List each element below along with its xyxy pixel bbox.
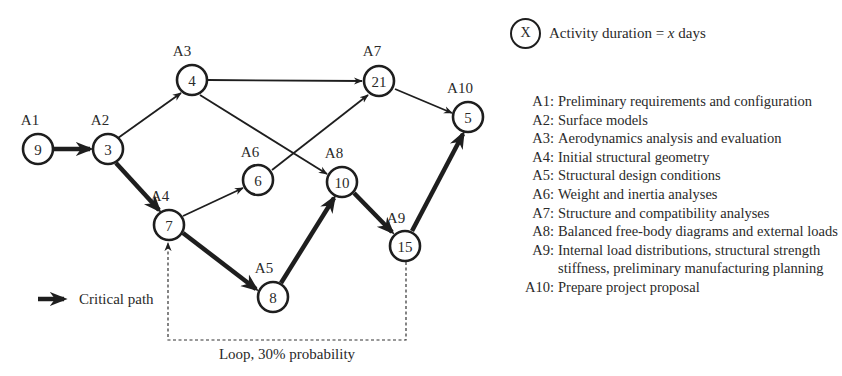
- activity-code: A6:: [510, 185, 558, 204]
- node-a5: A5 8: [255, 260, 288, 312]
- node-a2: A2 3: [91, 112, 123, 164]
- svg-text:15: 15: [398, 239, 413, 255]
- edge-a7-a10: [395, 89, 452, 113]
- svg-text:10: 10: [335, 175, 350, 191]
- node-a3: A3 4: [173, 43, 207, 95]
- activity-network-diagram: Loop, 30% probability A1 9 A2 3 A3 4 A4 …: [0, 0, 500, 376]
- activity-code: A5:: [510, 166, 558, 185]
- duration-key-text: Activity duration = x days: [549, 25, 706, 42]
- activity-code: A3:: [510, 129, 558, 148]
- activity-item: A10:Prepare project proposal: [510, 278, 840, 297]
- node-a8: A8 10: [325, 145, 357, 197]
- activity-description: Preliminary requirements and configurati…: [558, 92, 812, 111]
- duration-key-suffix: days: [675, 25, 706, 41]
- activity-item: A5:Structural design conditions: [510, 166, 840, 185]
- svg-text:8: 8: [269, 290, 277, 306]
- svg-text:5: 5: [464, 110, 472, 126]
- svg-text:A10: A10: [447, 80, 473, 96]
- activity-item: A3:Aerodynamics analysis and evaluation: [510, 129, 840, 148]
- svg-text:A2: A2: [91, 112, 109, 128]
- svg-text:6: 6: [254, 173, 262, 189]
- edge-a3-a7: [208, 80, 362, 81]
- svg-text:A4: A4: [151, 188, 170, 204]
- edge-a3-a8: [200, 95, 327, 174]
- edge-a6-a7: [272, 95, 368, 170]
- activity-list: A1:Preliminary requirements and configur…: [510, 92, 840, 297]
- activity-description: Prepare project proposal: [558, 278, 700, 297]
- activity-code: A1:: [510, 92, 558, 111]
- activity-description: Structural design conditions: [558, 166, 721, 185]
- duration-key-circle-icon: X: [510, 18, 541, 49]
- activity-description: Surface models: [558, 111, 648, 130]
- edge-a4-a6: [183, 188, 243, 216]
- activity-code: A7:: [510, 204, 558, 223]
- svg-text:21: 21: [372, 74, 387, 90]
- activity-description: Internal load distributions, structural …: [558, 241, 840, 278]
- activity-item: A7:Structure and compatibility analyses: [510, 204, 840, 223]
- legend-panel: X Activity duration = x days A1:Prelimin…: [510, 16, 840, 297]
- activity-item: A4:Initial structural geometry: [510, 148, 840, 167]
- svg-text:A7: A7: [363, 43, 382, 59]
- activity-item: A9:Internal load distributions, structur…: [510, 241, 840, 278]
- svg-text:A3: A3: [173, 43, 191, 59]
- activity-code: A4:: [510, 148, 558, 167]
- activity-code: A10:: [510, 278, 558, 297]
- activity-item: A6:Weight and inertia analyses: [510, 185, 840, 204]
- duration-key-prefix: Activity duration =: [549, 25, 668, 41]
- svg-text:A8: A8: [325, 145, 343, 161]
- node-a10: A10 5: [447, 80, 483, 132]
- duration-key-var: x: [668, 25, 675, 41]
- edge-a4-a5: [183, 233, 256, 289]
- edge-a9-a10: [412, 134, 463, 231]
- activity-code: A2:: [510, 111, 558, 130]
- activity-description: Structure and compatibility analyses: [558, 204, 769, 223]
- duration-key-symbol: X: [520, 25, 530, 41]
- node-a4: A4 7: [151, 188, 184, 240]
- node-a7: A7 21: [363, 43, 394, 96]
- svg-text:A1: A1: [21, 112, 39, 128]
- svg-text:A6: A6: [241, 144, 260, 160]
- svg-text:A9: A9: [387, 210, 405, 226]
- critical-path-legend: Critical path: [38, 291, 154, 307]
- node-a1: A1 9: [21, 112, 53, 164]
- activity-description: Weight and inertia analyses: [558, 185, 718, 204]
- svg-text:9: 9: [34, 142, 42, 158]
- critical-path-label: Critical path: [79, 291, 154, 307]
- loop-label: Loop, 30% probability: [219, 346, 356, 362]
- node-a9: A9 15: [387, 210, 420, 261]
- activity-description: Initial structural geometry: [558, 148, 709, 167]
- activity-item: A8:Balanced free-body diagrams and exter…: [510, 222, 840, 241]
- activity-code: A9:: [510, 241, 558, 278]
- svg-text:A5: A5: [255, 260, 273, 276]
- edge-a5-a8: [281, 198, 334, 283]
- svg-text:4: 4: [188, 73, 196, 89]
- activity-item: A1:Preliminary requirements and configur…: [510, 92, 840, 111]
- duration-key: X Activity duration = x days: [510, 16, 840, 50]
- activity-description: Aerodynamics analysis and evaluation: [558, 129, 781, 148]
- edge-a2-a3: [118, 93, 181, 138]
- activity-code: A8:: [510, 222, 558, 241]
- activity-description: Balanced free-body diagrams and external…: [558, 222, 838, 241]
- svg-text:7: 7: [165, 218, 173, 234]
- node-a6: A6 6: [241, 144, 273, 195]
- svg-text:3: 3: [104, 142, 112, 158]
- activity-item: A2:Surface models: [510, 111, 840, 130]
